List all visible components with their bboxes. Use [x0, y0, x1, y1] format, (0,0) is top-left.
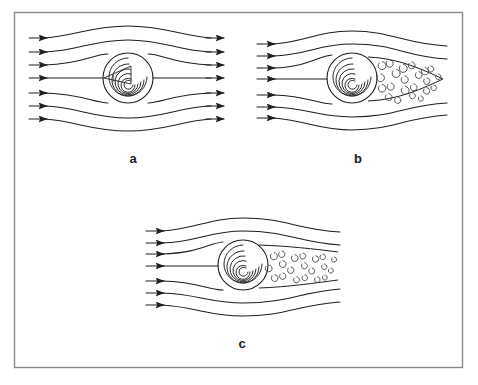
flow-diagram-svg: a: [0, 0, 478, 385]
panel-label-a: a: [129, 151, 137, 166]
flow-diagram-figure: a: [0, 0, 478, 385]
panel-label-b: b: [354, 151, 362, 166]
figure-frame: [15, 13, 463, 368]
panel-label-c: c: [238, 336, 245, 351]
